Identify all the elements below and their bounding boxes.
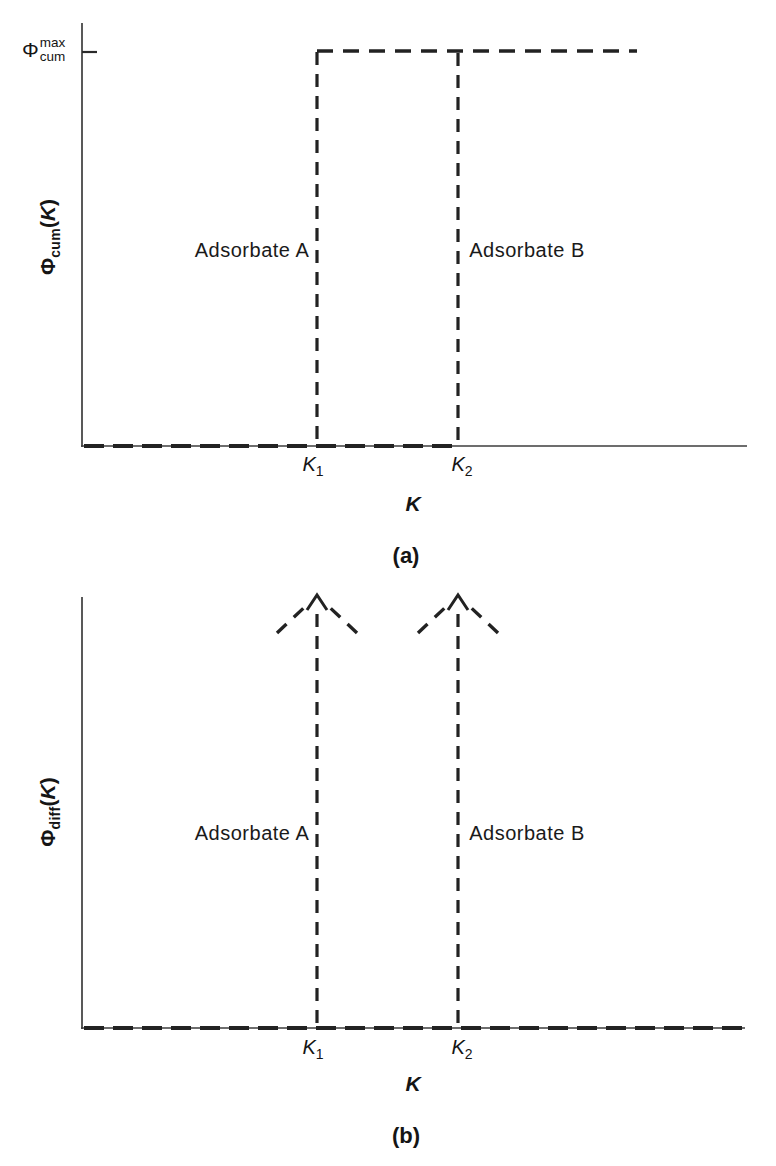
y-axis-label-subscript: cum [47,228,63,258]
paren-close: ) [36,199,59,206]
figure-energy-distributions: Φmaxcum Φcum(K) Adsorbate A Adsorbate B … [0,0,776,1166]
phi-symbol: Φ [36,829,59,846]
panel-b-x-axis-label: K [405,1072,420,1096]
k1-subscript: 1 [316,463,324,479]
panel-a-y-axis-label: Φcum(K) [36,199,63,275]
panel-b-x-tick-k2: K2 [451,1036,472,1062]
k-symbol: K [451,453,464,475]
panel-b-k2-arrowhead-right-dashes [466,603,498,633]
panel-b-annotation-adsorbate-a: Adsorbate A [195,822,309,845]
k-symbol: K [451,1036,464,1058]
panel-b-k2-arrowhead-tip-icon [448,595,468,610]
panel-a-x-tick-k1: K1 [302,453,323,479]
panel-a-x-tick-k2: K2 [451,453,472,479]
phi-symbol: Φ [22,38,39,62]
ymax-superscript: max [40,36,66,50]
panel-b-k1-arrowhead-left-dashes [277,603,309,633]
panel-b-x-tick-k1: K1 [302,1036,323,1062]
ymax-subscript: cum [40,50,66,64]
k-symbol: K [36,784,59,799]
panel-a-ymax-tick-label: Φmaxcum [22,36,65,64]
panel-b-caption: (b) [392,1123,420,1149]
panel-b-k2-arrowhead-left-dashes [418,603,450,633]
y-axis-label-subscript: diff [47,806,63,829]
panel-b-k1-arrowhead-right-dashes [325,603,357,633]
panel-a-annotation-adsorbate-b: Adsorbate B [469,239,585,262]
k-symbol: K [36,206,59,221]
panel-a-x-axis-label: K [405,492,420,516]
paren-close: ) [36,777,59,784]
k2-subscript: 2 [465,1046,473,1062]
panel-b-k1-arrowhead-tip-icon [307,595,327,610]
k1-subscript: 1 [316,1046,324,1062]
phi-symbol: Φ [36,258,59,275]
k2-subscript: 2 [465,463,473,479]
k-symbol: K [302,453,315,475]
paren-open: ( [36,799,59,806]
k-symbol: K [302,1036,315,1058]
panel-b-annotation-adsorbate-b: Adsorbate B [469,822,585,845]
panel-a-annotation-adsorbate-a: Adsorbate A [195,239,309,262]
plot-lines-layer [0,0,776,1166]
paren-open: ( [36,221,59,228]
panel-a-caption: (a) [393,543,420,569]
panel-b-y-axis-label: Φdiff(K) [36,777,63,846]
